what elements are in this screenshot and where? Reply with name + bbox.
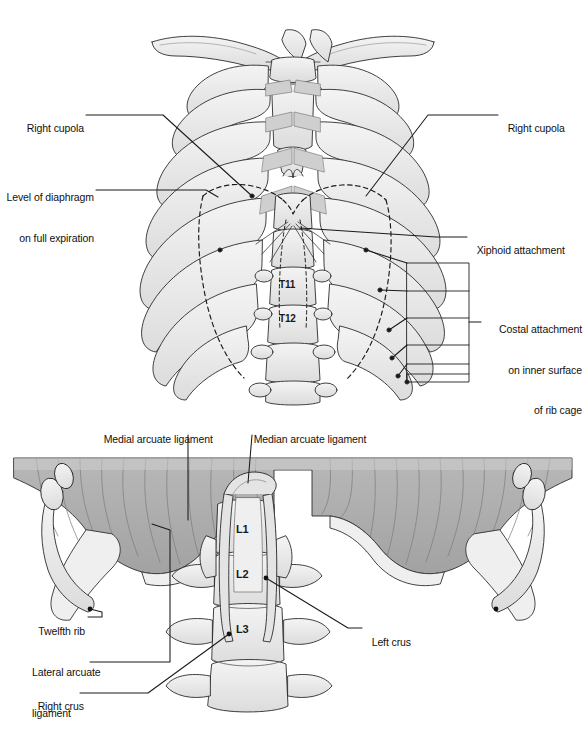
label-median-arcuate-ligament: Median arcuate ligament [248,419,366,446]
label-costal-attachment: Costal attachment on inner surface of ri… [408,296,582,431]
vertebra-label-T12: T12 [279,313,296,324]
label-right-cupola-right: Right cupola [502,108,565,135]
vertebra-label-L1: L1 [236,524,248,535]
figure-caption [46,716,566,728]
vertebra-label-L3: L3 [236,624,248,635]
vertebra-label-T11: T11 [279,279,295,290]
vertebra-label-L2: L2 [236,569,248,580]
label-left-crus: Left crus [366,622,411,649]
label-medial-arcuate-ligament: Medial arcuate ligament [98,419,213,446]
label-level-of-diaphragm: Level of diaphragm on full expiration [0,164,94,259]
diaphragm-upper-edge [14,458,572,470]
label-right-cupola-left: Right cupola [0,108,84,135]
label-twelfth-rib: Twelfth rib [0,611,85,638]
twelfth-rib-tip-marker-right [494,607,499,612]
label-xiphoid-attachment: Xiphoid attachment [471,230,565,257]
label-right-crus: Right crus [32,686,84,713]
